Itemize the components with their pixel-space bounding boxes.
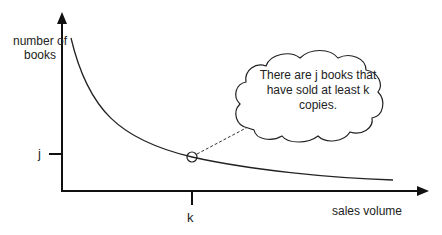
callout-text: There are j books that have sold at leas… bbox=[258, 68, 378, 113]
y-tick-label: j bbox=[38, 147, 41, 161]
x-axis-label: sales volume bbox=[332, 204, 402, 218]
callout-connector bbox=[197, 127, 248, 154]
y-axis-arrow-icon bbox=[57, 12, 67, 24]
y-axis-label: number of books bbox=[10, 34, 70, 62]
x-axis-arrow-icon bbox=[417, 186, 429, 196]
x-tick-label: k bbox=[187, 211, 194, 225]
